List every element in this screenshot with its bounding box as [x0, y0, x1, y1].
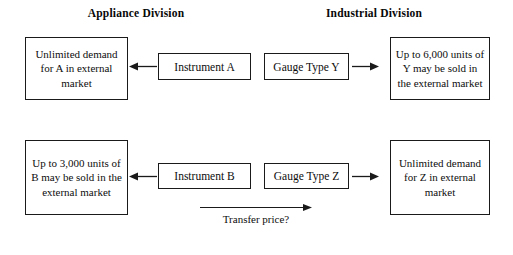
node-unlimited-demand-z: Unlimited demand for Z in external marke… — [390, 140, 490, 215]
arrow-right-icon-gauge-z — [352, 171, 379, 182]
arrow-right-icon-gauge-y — [352, 61, 379, 72]
arrow-left-icon-instrument-a — [129, 61, 157, 72]
transfer-price-label: Transfer price? — [196, 212, 316, 226]
division-header-industrial: Industrial Division — [300, 7, 448, 19]
arrow-left-icon-instrument-b — [129, 171, 157, 182]
node-instrument-a: Instrument A — [158, 53, 251, 80]
node-up-to-6000-units-y: Up to 6,000 units of Y may be sold in th… — [390, 37, 490, 100]
node-instrument-b: Instrument B — [158, 163, 251, 189]
node-up-to-3000-units-b: Up to 3,000 units of B may be sold in th… — [25, 140, 128, 215]
node-unlimited-demand-a: Unlimited demand for A in external marke… — [25, 37, 128, 100]
node-gauge-type-y: Gauge Type Y — [264, 53, 349, 80]
node-gauge-type-z: Gauge Type Z — [264, 163, 349, 189]
transfer-pricing-diagram: Appliance Division Industrial Division U… — [0, 0, 513, 255]
division-header-appliance: Appliance Division — [62, 7, 210, 19]
